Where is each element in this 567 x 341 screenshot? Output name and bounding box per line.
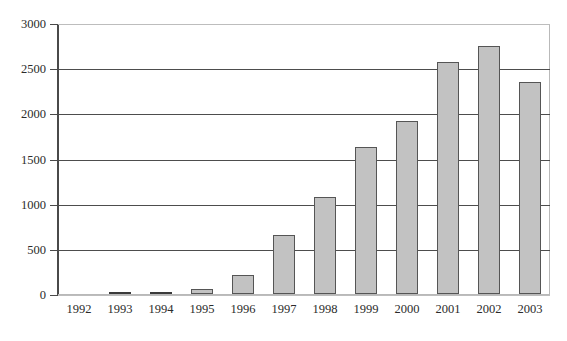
x-axis-label-1995: 1995	[190, 303, 215, 316]
bar-1993	[109, 292, 131, 294]
gridline	[58, 24, 550, 25]
bar-chart: 050010001500200025003000 199219931994199…	[0, 0, 567, 341]
y-axis-tick	[50, 69, 57, 70]
y-axis-tick	[50, 114, 57, 115]
bar-2000	[396, 121, 418, 294]
x-axis-label-2003: 2003	[518, 303, 543, 316]
y-axis-tick	[50, 205, 57, 206]
bar-1999	[355, 147, 377, 294]
y-axis-tick	[50, 295, 57, 296]
x-axis-label-2000: 2000	[395, 303, 420, 316]
bar-2001	[437, 62, 459, 294]
bar-2002	[478, 46, 500, 294]
y-axis-label: 2000	[0, 108, 46, 121]
bar-1997	[273, 235, 295, 294]
gridline	[58, 69, 550, 70]
y-axis-tick	[50, 160, 57, 161]
plot-area	[58, 24, 550, 295]
gridline	[58, 114, 550, 115]
y-axis-label: 1000	[0, 199, 46, 212]
x-axis-label-2002: 2002	[477, 303, 502, 316]
y-axis-label: 0	[0, 289, 46, 302]
y-axis-tick	[50, 24, 57, 25]
bar-1998	[314, 197, 336, 294]
gridline	[58, 295, 550, 296]
x-axis-label-2001: 2001	[436, 303, 461, 316]
gridline	[58, 205, 550, 206]
x-axis-label-1999: 1999	[354, 303, 379, 316]
x-axis-label-1993: 1993	[108, 303, 133, 316]
x-axis-label-1998: 1998	[313, 303, 338, 316]
x-axis-label-1997: 1997	[272, 303, 297, 316]
y-axis-label: 2500	[0, 63, 46, 76]
gridline	[58, 160, 550, 161]
y-axis-label: 3000	[0, 18, 46, 31]
gridline	[58, 250, 550, 251]
bar-2003	[519, 82, 541, 294]
x-axis-label-1994: 1994	[149, 303, 174, 316]
bar-1994	[150, 292, 172, 294]
y-axis-tick	[50, 250, 57, 251]
bar-1995	[191, 289, 213, 294]
x-axis-label-1996: 1996	[231, 303, 256, 316]
y-axis-label: 1500	[0, 154, 46, 167]
x-axis-label-1992: 1992	[67, 303, 92, 316]
bar-1996	[232, 275, 254, 294]
y-axis-label: 500	[0, 244, 46, 257]
